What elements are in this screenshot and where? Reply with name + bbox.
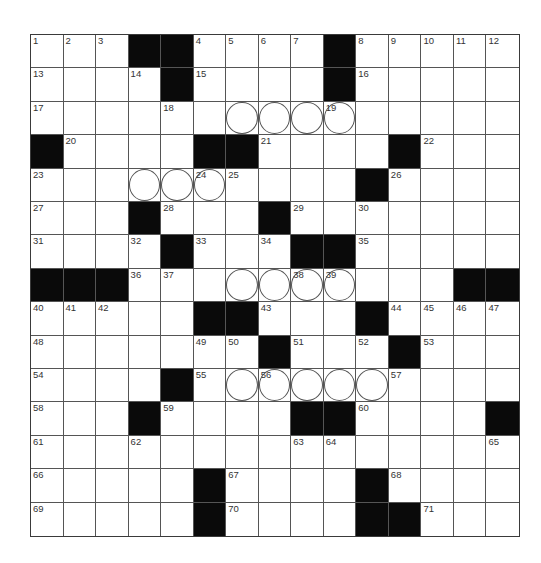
grid-cell-r6c7[interactable] [226,202,259,235]
grid-cell-r7c8[interactable]: 34 [259,235,292,268]
grid-cell-r4c2[interactable]: 20 [64,135,97,168]
grid-cell-r2c15[interactable] [486,68,519,101]
grid-cell-r13c14[interactable] [454,436,487,469]
grid-cell-r8c4[interactable]: 36 [129,269,162,302]
grid-cell-r7c1[interactable]: 31 [31,235,64,268]
grid-cell-r11c12[interactable]: 57 [389,369,422,402]
grid-cell-r7c11[interactable]: 35 [356,235,389,268]
grid-cell-r8c10[interactable]: 39 [324,269,357,302]
grid-cell-r6c3[interactable] [96,202,129,235]
grid-cell-r13c11[interactable] [356,436,389,469]
grid-cell-r3c4[interactable] [129,102,162,135]
grid-cell-r2c4[interactable]: 14 [129,68,162,101]
grid-cell-r3c3[interactable] [96,102,129,135]
grid-cell-r1c11[interactable]: 8 [356,35,389,68]
grid-cell-r3c7[interactable] [226,102,259,135]
grid-cell-r12c11[interactable]: 60 [356,402,389,435]
grid-cell-r1c9[interactable]: 7 [291,35,324,68]
grid-cell-r10c4[interactable] [129,336,162,369]
grid-cell-r10c5[interactable] [161,336,194,369]
grid-cell-r2c8[interactable] [259,68,292,101]
grid-cell-r15c5[interactable] [161,503,194,536]
grid-cell-r14c10[interactable] [324,469,357,502]
grid-cell-r10c11[interactable]: 52 [356,336,389,369]
grid-cell-r1c8[interactable]: 6 [259,35,292,68]
grid-cell-r8c11[interactable] [356,269,389,302]
grid-cell-r13c13[interactable] [421,436,454,469]
grid-cell-r9c4[interactable] [129,302,162,335]
grid-cell-r11c10[interactable] [324,369,357,402]
grid-cell-r10c2[interactable] [64,336,97,369]
grid-cell-r7c15[interactable] [486,235,519,268]
grid-cell-r9c2[interactable]: 41 [64,302,97,335]
grid-cell-r14c2[interactable] [64,469,97,502]
grid-cell-r11c3[interactable] [96,369,129,402]
grid-cell-r1c15[interactable]: 12 [486,35,519,68]
grid-cell-r15c3[interactable] [96,503,129,536]
grid-cell-r3c9[interactable] [291,102,324,135]
grid-cell-r12c5[interactable]: 59 [161,402,194,435]
grid-cell-r9c1[interactable]: 40 [31,302,64,335]
grid-cell-r3c14[interactable] [454,102,487,135]
grid-cell-r9c14[interactable]: 46 [454,302,487,335]
grid-cell-r7c3[interactable] [96,235,129,268]
grid-cell-r7c14[interactable] [454,235,487,268]
grid-cell-r10c6[interactable]: 49 [194,336,227,369]
grid-cell-r1c2[interactable]: 2 [64,35,97,68]
grid-cell-r11c8[interactable]: 56 [259,369,292,402]
grid-cell-r13c12[interactable] [389,436,422,469]
grid-cell-r6c14[interactable] [454,202,487,235]
grid-cell-r11c7[interactable] [226,369,259,402]
grid-cell-r14c12[interactable]: 68 [389,469,422,502]
grid-cell-r3c12[interactable] [389,102,422,135]
grid-cell-r14c15[interactable] [486,469,519,502]
grid-cell-r11c4[interactable] [129,369,162,402]
grid-cell-r8c13[interactable] [421,269,454,302]
grid-cell-r15c1[interactable]: 69 [31,503,64,536]
grid-cell-r2c14[interactable] [454,68,487,101]
grid-cell-r11c14[interactable] [454,369,487,402]
grid-cell-r5c5[interactable] [161,169,194,202]
grid-cell-r4c9[interactable] [291,135,324,168]
grid-cell-r9c9[interactable] [291,302,324,335]
grid-cell-r6c1[interactable]: 27 [31,202,64,235]
grid-cell-r14c9[interactable] [291,469,324,502]
grid-cell-r12c2[interactable] [64,402,97,435]
grid-cell-r9c5[interactable] [161,302,194,335]
grid-cell-r13c1[interactable]: 61 [31,436,64,469]
grid-cell-r12c13[interactable] [421,402,454,435]
grid-cell-r13c4[interactable]: 62 [129,436,162,469]
grid-cell-r5c6[interactable]: 24 [194,169,227,202]
grid-cell-r2c2[interactable] [64,68,97,101]
grid-cell-r8c5[interactable]: 37 [161,269,194,302]
grid-cell-r1c6[interactable]: 4 [194,35,227,68]
grid-cell-r3c6[interactable] [194,102,227,135]
grid-cell-r13c6[interactable] [194,436,227,469]
grid-cell-r4c10[interactable] [324,135,357,168]
grid-cell-r11c6[interactable]: 55 [194,369,227,402]
grid-cell-r14c7[interactable]: 67 [226,469,259,502]
grid-cell-r9c15[interactable]: 47 [486,302,519,335]
grid-cell-r10c3[interactable] [96,336,129,369]
grid-cell-r11c11[interactable] [356,369,389,402]
grid-cell-r10c1[interactable]: 48 [31,336,64,369]
grid-cell-r6c11[interactable]: 30 [356,202,389,235]
grid-cell-r11c13[interactable] [421,369,454,402]
grid-cell-r9c8[interactable]: 43 [259,302,292,335]
grid-cell-r12c7[interactable] [226,402,259,435]
grid-cell-r7c7[interactable] [226,235,259,268]
grid-cell-r15c15[interactable] [486,503,519,536]
grid-cell-r8c12[interactable] [389,269,422,302]
grid-cell-r3c5[interactable]: 18 [161,102,194,135]
grid-cell-r13c15[interactable]: 65 [486,436,519,469]
grid-cell-r4c14[interactable] [454,135,487,168]
grid-cell-r2c13[interactable] [421,68,454,101]
grid-cell-r6c9[interactable]: 29 [291,202,324,235]
grid-cell-r4c5[interactable] [161,135,194,168]
grid-cell-r14c3[interactable] [96,469,129,502]
grid-cell-r15c14[interactable] [454,503,487,536]
grid-cell-r5c12[interactable]: 26 [389,169,422,202]
grid-cell-r5c14[interactable] [454,169,487,202]
grid-cell-r4c15[interactable] [486,135,519,168]
grid-cell-r15c8[interactable] [259,503,292,536]
